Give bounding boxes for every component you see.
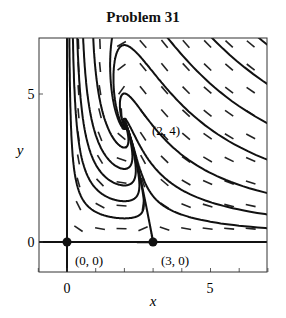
x-axis-label: x [149, 293, 157, 309]
y-tick-0: 0 [28, 235, 35, 250]
equilibrium-point-origin [63, 238, 72, 247]
phase-portrait: 0 5 0 5 x y (0, 0) (3, 0) (2, 4) [0, 0, 286, 318]
x-tick-5: 5 [207, 281, 214, 296]
y-axis-label: y [15, 142, 24, 158]
x-tick-0: 0 [64, 281, 71, 296]
equilibrium-point-3-0 [149, 238, 158, 247]
equilibrium-label-3-0: (3, 0) [161, 253, 189, 268]
equilibrium-label-origin: (0, 0) [75, 253, 103, 268]
equilibrium-label-2-4: (2, 4) [152, 123, 180, 138]
y-tick-5: 5 [28, 87, 35, 102]
